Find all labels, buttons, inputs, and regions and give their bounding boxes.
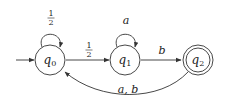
label-q1-q2: b — [158, 44, 165, 57]
svg-text:1: 1 — [86, 41, 91, 50]
state-q2-accepting: q2 — [183, 45, 213, 75]
label-q0-q0: 1 2 — [48, 9, 55, 27]
label-q2-q0: a, b — [118, 83, 139, 96]
label-q1-q1: a — [123, 14, 130, 27]
state-q0: q0 — [35, 45, 65, 75]
automaton-diagram: 1 2 1 2 a b a, b q0 q1 q2 — [0, 0, 228, 104]
svg-text:2: 2 — [86, 50, 91, 59]
label-q0-q1: 1 2 — [86, 41, 93, 59]
svg-text:2: 2 — [48, 18, 53, 27]
svg-text:1: 1 — [48, 9, 53, 18]
state-q1: q1 — [110, 45, 140, 75]
